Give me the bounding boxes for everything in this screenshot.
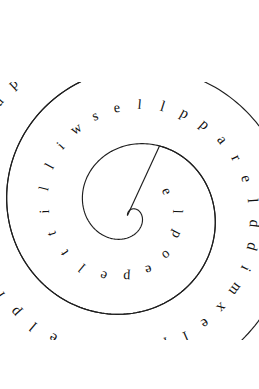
spiral-letter: l bbox=[25, 319, 39, 335]
spiral-letter: p bbox=[123, 269, 131, 285]
spiral-letter: l bbox=[75, 261, 88, 276]
spiral-letter: l bbox=[245, 198, 259, 204]
spiral-puzzle-svg: puddleepuzzlesdpurplehsimplexmiddlerappl… bbox=[0, 82, 259, 340]
spiral-letter: l bbox=[181, 328, 192, 340]
spiral-letters-inner-ring: leswillittlepeople bbox=[35, 96, 186, 286]
spiral-letter: i bbox=[238, 263, 255, 274]
spiral-letter: l bbox=[137, 96, 142, 112]
spiral-puzzle-figure: puddleepuzzlesdpurplehsimplexmiddlerappl… bbox=[0, 82, 259, 340]
spiral-letter: d bbox=[246, 219, 259, 229]
spiral-letter: h bbox=[67, 338, 81, 340]
spiral-letter: t bbox=[43, 230, 59, 238]
spiral-letter: e bbox=[113, 99, 121, 116]
spiral-letter: u bbox=[0, 92, 7, 109]
spiral-letter: a bbox=[214, 131, 232, 147]
document-page: r list words. Make a circle puzzle ave a… bbox=[0, 0, 259, 389]
spiral-letter: p bbox=[6, 304, 24, 321]
spiral-letter: e bbox=[143, 262, 154, 279]
spiral-letter: p bbox=[169, 228, 186, 242]
spiral-letter: s bbox=[90, 107, 101, 124]
spiral-letter: l bbox=[170, 209, 186, 214]
spiral-letter: p bbox=[159, 337, 171, 340]
spiral-center-terminus bbox=[127, 146, 159, 216]
spiral-letter: o bbox=[159, 247, 175, 264]
spiral-letter: r bbox=[228, 151, 245, 163]
spiral-letter: i bbox=[36, 209, 52, 213]
spiral-letter: l bbox=[35, 184, 51, 192]
spiral-letter: e bbox=[45, 330, 60, 340]
spiral-letter: p bbox=[197, 115, 214, 133]
spiral-letter: t bbox=[56, 247, 72, 259]
spiral-letter: e bbox=[159, 184, 176, 197]
spiral-letter: e bbox=[198, 315, 213, 333]
spiral-letter: m bbox=[226, 280, 247, 300]
spiral-letter: i bbox=[53, 138, 67, 152]
spiral-letter: x bbox=[213, 299, 230, 317]
spiral-letter: w bbox=[67, 118, 85, 137]
spiral-letter: l bbox=[41, 160, 57, 171]
spiral-letter: p bbox=[178, 103, 193, 122]
spiral-letter: l bbox=[158, 97, 167, 114]
spiral-letter: e bbox=[238, 173, 256, 184]
spiral-letter: e bbox=[97, 268, 109, 285]
spiral-letter: r bbox=[0, 288, 8, 302]
spiral-letter: p bbox=[4, 82, 21, 92]
spiral-letter: d bbox=[244, 241, 259, 254]
